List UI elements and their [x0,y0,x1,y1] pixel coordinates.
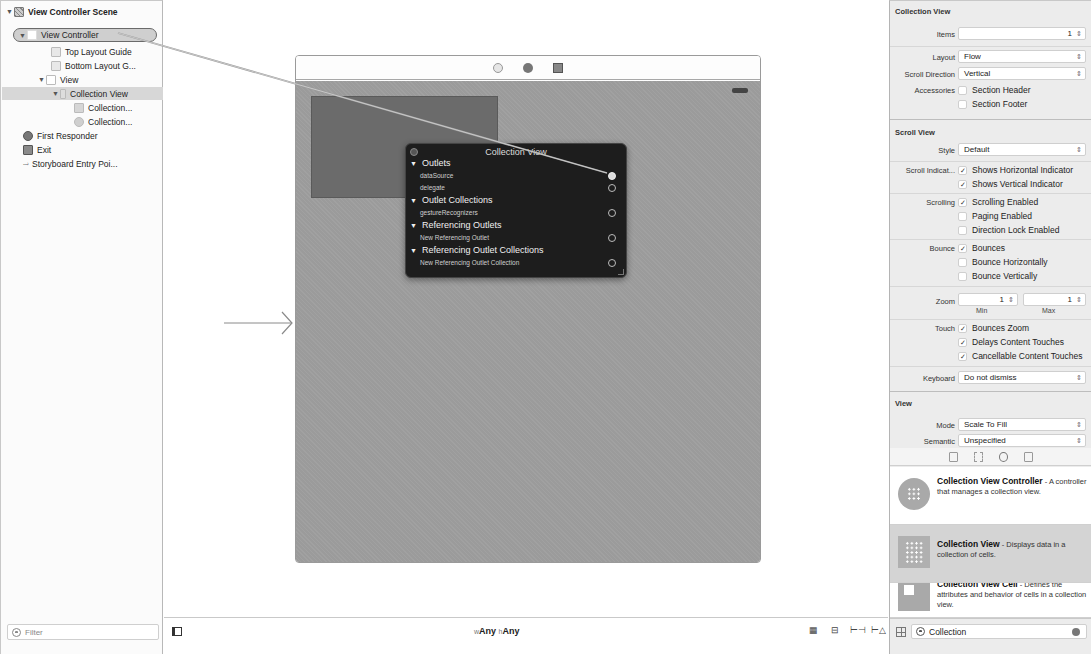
first-responder-icon[interactable] [523,63,533,73]
library-filter-input[interactable]: Collection [911,624,1087,639]
chevron-updown-icon: ⇕ [1076,435,1082,447]
outlet-datasource: dataSource [420,172,453,179]
section-footer-checkbox[interactable]: Section Footer [958,99,1027,109]
grid-view-icon[interactable] [896,627,906,637]
exit-icon [23,145,33,155]
library-item-collection-view[interactable]: Collection View - Displays data in a col… [890,525,1091,583]
keyboard-popup[interactable]: Do not dismiss ⇕ [958,371,1086,384]
mode-label: Mode [936,421,955,430]
clear-search-icon[interactable] [1072,628,1080,636]
outlet-delegate: delegate [420,184,445,191]
outline-item-view-controller[interactable]: ▼ View Controller [13,28,157,42]
canvas-bottom-bar: wAny hAny ▦ ⊟ ⊢⊣ ⊢△ [164,617,888,654]
disclosure-triangle-icon[interactable]: ▼ [51,90,60,97]
resolve-issues-icon[interactable]: ⊢△ [871,625,882,635]
outline-item-view-controller-scene[interactable]: ▼ View Controller Scene [5,5,118,18]
stepper-icon[interactable]: ⇕ [1076,294,1082,306]
scrolling-enabled-checkbox[interactable]: ✓ Scrolling Enabled [958,197,1038,207]
resize-handle-icon[interactable] [618,269,624,275]
file-template-icon[interactable] [949,452,958,462]
outlet-circle-icon[interactable] [608,184,616,192]
storyboard-canvas[interactable]: Collection View ▼ Outlets dataSource del… [164,1,888,616]
zoom-min-stepper[interactable]: 1 ⇕ [958,293,1018,306]
outline-item-view[interactable]: ▼ View [37,73,78,86]
bounce-horizontally-checkbox[interactable]: Bounce Horizontally [958,257,1048,267]
outline-item-exit[interactable]: Exit [23,143,51,156]
outlet-circle-icon[interactable] [608,234,616,242]
attributes-inspector: Collection View Items 1 ⇕ Layout Flow ⇕ … [889,0,1091,654]
section-referencing-outlets: ▼ Referencing Outlets [410,220,501,230]
storyboard-entry-arrow[interactable] [224,309,294,337]
layout-label: Layout [932,53,955,62]
items-stepper[interactable]: 1 ⇕ [958,27,1086,40]
cancellable-content-touches-checkbox[interactable]: ✓ Cancellable Content Touches [958,351,1082,361]
scrolling-label: Scrolling [926,198,955,207]
outline-filter-input[interactable]: Filter [7,624,159,640]
outline-item-storyboard-entry-point[interactable]: ⤑ Storyboard Entry Poi... [23,157,118,170]
delays-content-touches-checkbox[interactable]: ✓ Delays Content Touches [958,337,1064,347]
checkbox-checked-icon: ✓ [958,166,967,175]
library-item-collection-view-controller[interactable]: Collection View Controller - A controlle… [890,467,1091,525]
scroll-direction-label: Scroll Direction [905,70,955,79]
outlet-circle-icon[interactable] [608,209,616,217]
view-controller-scene[interactable] [295,55,761,563]
section-outlet-collections: ▼ Outlet Collections [410,195,492,205]
close-icon[interactable] [410,148,418,156]
object-library-icon[interactable] [999,452,1008,462]
layout-popup[interactable]: Flow ⇕ [958,50,1086,63]
outlet-connected-circle-icon[interactable] [608,172,616,180]
media-library-icon[interactable] [1024,452,1033,462]
items-label: Items [937,30,955,39]
bounces-zoom-checkbox[interactable]: ✓ Bounces Zoom [958,323,1029,333]
view-controller-icon[interactable] [493,63,503,73]
disclosure-triangle-icon[interactable]: ▼ [5,8,14,15]
disclosure-triangle-icon[interactable]: ▼ [410,222,417,229]
outline-item-top-layout-guide[interactable]: Top Layout Guide [51,45,132,58]
disclosure-triangle-icon[interactable]: ▼ [18,32,27,39]
library-item-collection-view-cell[interactable]: Collection View Cell - Defines the attri… [890,583,1091,618]
code-snippet-icon[interactable] [974,452,983,462]
outline-item-bottom-layout-guide[interactable]: Bottom Layout G... [51,59,136,72]
view-controller-icon [27,30,37,40]
autolayout-tools: ▦ ⊟ ⊢⊣ ⊢△ [808,625,882,635]
checkbox-icon [958,86,967,95]
size-class-button[interactable]: wAny hAny [474,626,520,636]
layout-guide-icon [51,61,61,71]
section-header-checkbox[interactable]: Section Header [958,85,1031,95]
zoom-max-stepper[interactable]: 1 ⇕ [1023,293,1086,306]
outlet-circle-icon[interactable] [608,259,616,267]
bounces-checkbox[interactable]: ✓ Bounces [958,243,1005,253]
shows-horizontal-indicator-checkbox[interactable]: ✓ Shows Horizontal Indicator [958,165,1073,175]
library-filter-bar: Collection [890,618,1091,654]
semantic-popup[interactable]: Unspecified ⇕ [958,434,1086,447]
outline-item-collection-view[interactable]: ▼ Collection View [2,87,163,100]
disclosure-triangle-icon[interactable]: ▼ [410,247,417,254]
outline-item-collection-cell[interactable]: Collection... [74,101,132,114]
shows-vertical-indicator-checkbox[interactable]: ✓ Shows Vertical Indicator [958,179,1063,189]
stepper-icon[interactable]: ⇕ [1076,28,1082,40]
paging-enabled-checkbox[interactable]: Paging Enabled [958,211,1032,221]
collection-view-icon [60,89,66,99]
align-icon[interactable]: ⊟ [829,625,840,635]
disclosure-triangle-icon[interactable]: ▼ [37,76,46,83]
scroll-direction-popup[interactable]: Vertical ⇕ [958,67,1086,80]
touch-label: Touch [935,324,955,333]
exit-icon[interactable] [553,63,563,73]
layout-guide-icon [51,47,61,57]
stepper-icon[interactable]: ⇕ [1008,294,1014,306]
outline-item-first-responder[interactable]: First Responder [23,129,97,142]
disclosure-triangle-icon[interactable]: ▼ [410,160,417,167]
checkbox-icon [958,100,967,109]
chevron-updown-icon: ⇕ [1076,372,1082,384]
bounce-vertically-checkbox[interactable]: Bounce Vertically [958,271,1037,281]
direction-lock-enabled-checkbox[interactable]: Direction Lock Enabled [958,225,1059,235]
popover-title: Collection View [406,146,626,158]
disclosure-triangle-icon[interactable]: ▼ [410,197,417,204]
pin-icon[interactable]: ⊢⊣ [850,625,861,635]
outline-item-collection-layout[interactable]: Collection... [74,115,132,128]
toggle-outline-icon[interactable] [172,627,182,636]
mode-popup[interactable]: Scale To Fill ⇕ [958,418,1086,431]
embed-in-icon[interactable]: ▦ [808,625,819,635]
chevron-updown-icon: ⇕ [1076,51,1082,63]
style-popup[interactable]: Default ⇕ [958,143,1086,156]
